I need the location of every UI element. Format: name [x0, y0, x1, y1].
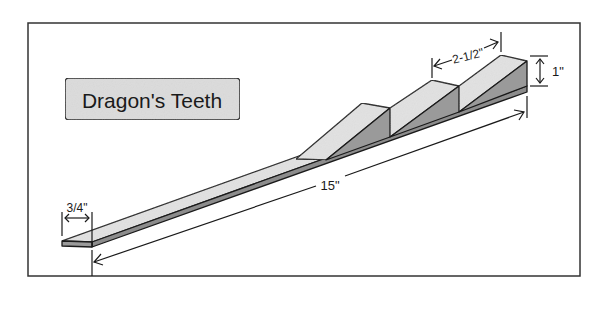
length-label: 15": [320, 178, 339, 193]
title-box: Dragon's Teeth: [65, 78, 240, 120]
dragons-teeth-diagram: Dragon's Teeth 3/4": [0, 0, 608, 310]
width-label: 3/4": [67, 201, 88, 215]
title-label: Dragon's Teeth: [82, 89, 222, 112]
height-label: 1": [552, 64, 564, 79]
